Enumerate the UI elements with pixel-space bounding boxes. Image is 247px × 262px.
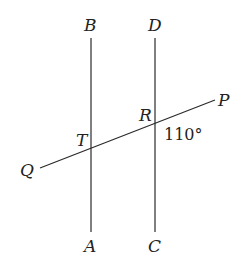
angle-label-r: 110° xyxy=(164,125,203,144)
label-t: T xyxy=(76,130,89,150)
geometry-diagram: B D A C P Q T R 110° xyxy=(0,0,247,262)
diagram-svg: B D A C P Q T R 110° xyxy=(0,0,247,262)
label-r: R xyxy=(138,105,152,125)
label-q: Q xyxy=(20,160,34,180)
label-a: A xyxy=(82,236,96,256)
label-c: C xyxy=(148,236,161,256)
label-p: P xyxy=(217,90,230,110)
label-b: B xyxy=(83,15,97,35)
label-d: D xyxy=(147,15,162,35)
